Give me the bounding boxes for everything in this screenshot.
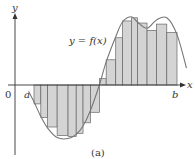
riemann-rectangle [68, 85, 76, 136]
y-axis-arrow-icon [13, 13, 18, 19]
x-axis-label: x [187, 79, 193, 90]
b-label: b [172, 89, 178, 100]
riemann-rectangle [106, 60, 116, 85]
riemann-rectangle [123, 21, 132, 85]
riemann-rectangle [131, 18, 137, 85]
figure-caption: (a) [91, 147, 105, 158]
riemann-rectangle [157, 24, 167, 85]
riemann-sum-figure: y x 0 a b y = f(x) (a) [0, 0, 195, 159]
y-axis-label: y [11, 2, 18, 13]
riemann-rectangle [57, 85, 68, 135]
curve-label: y = f(x) [68, 35, 107, 46]
riemann-rectangle [147, 30, 157, 85]
riemann-rectangle [41, 85, 48, 118]
a-label: a [24, 89, 30, 100]
x-axis-arrow-icon [180, 83, 186, 88]
riemann-rectangle [34, 85, 41, 104]
riemann-rectangle [76, 85, 83, 133]
origin-label: 0 [5, 89, 11, 100]
riemann-rectangle [116, 38, 123, 85]
riemann-rectangle [83, 85, 90, 123]
riemann-rectangle [167, 33, 177, 86]
riemann-rectangle [138, 23, 148, 85]
riemann-rectangle [48, 85, 58, 127]
